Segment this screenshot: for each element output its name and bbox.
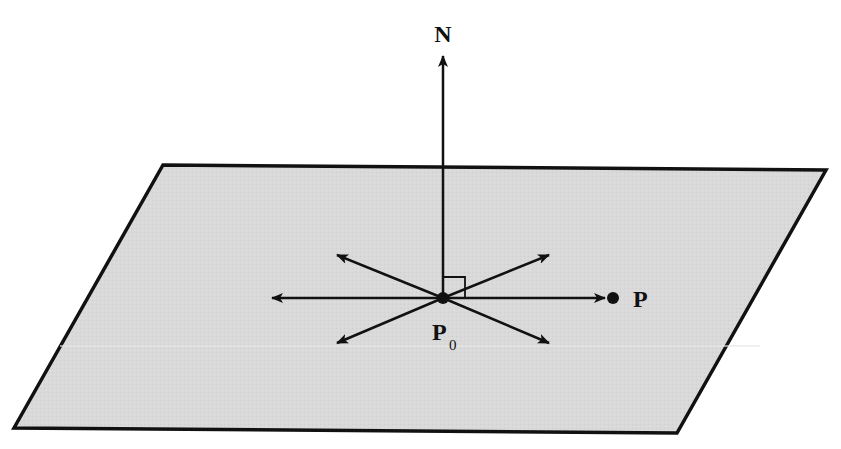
point-P0-dot [437,292,449,304]
label-P0-subscript: 0 [449,337,457,353]
plane-normal-diagram: N P P 0 [0,0,841,449]
label-P: P [633,286,648,312]
label-N: N [434,21,452,47]
point-P-dot [607,292,619,304]
label-P0: P [432,319,447,345]
label-P0-main: P [432,319,447,345]
